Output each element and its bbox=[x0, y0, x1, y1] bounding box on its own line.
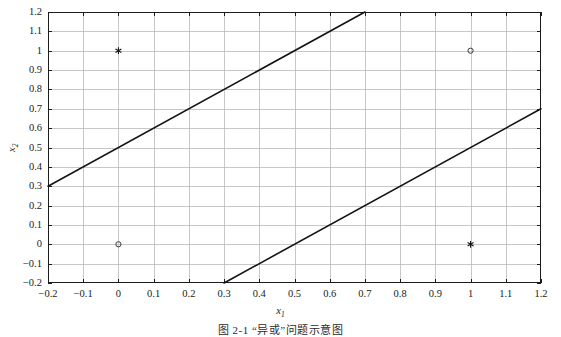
y-axis-title-subscript: 2 bbox=[11, 144, 20, 148]
y-tick-label: 0.6 bbox=[0, 123, 42, 134]
x-axis-title: x1 bbox=[0, 305, 561, 319]
y-tick-label: 0.1 bbox=[0, 220, 42, 231]
x-tick-label: 1.2 bbox=[534, 289, 547, 300]
line-lower-decision-boundary bbox=[224, 109, 541, 283]
y-tick-label: 0.4 bbox=[0, 162, 42, 173]
x-tick-label: 0.2 bbox=[182, 289, 195, 300]
x-tick-label: 0.9 bbox=[429, 289, 442, 300]
line-upper-decision-boundary bbox=[48, 12, 365, 186]
x-tick-label: 1.1 bbox=[499, 289, 512, 300]
y-axis-title: x2 bbox=[6, 144, 20, 152]
y-tick-label: 0.9 bbox=[0, 65, 42, 76]
y-tick-label: 0.2 bbox=[0, 200, 42, 211]
y-tick-label: 0.3 bbox=[0, 181, 42, 192]
x-tick-label: −0.1 bbox=[74, 289, 93, 300]
marker-asterisk bbox=[468, 241, 474, 248]
marker-circle bbox=[116, 242, 121, 247]
y-tick-label: 0.8 bbox=[0, 84, 42, 95]
x-tick-label: 0.4 bbox=[253, 289, 266, 300]
y-tick-label: 1.2 bbox=[0, 7, 42, 18]
y-tick-label: −0.2 bbox=[0, 278, 42, 289]
y-tick-label: 0 bbox=[0, 239, 42, 250]
y-tick-label: −0.1 bbox=[0, 258, 42, 269]
marker-asterisk bbox=[115, 47, 121, 54]
data-layer bbox=[48, 12, 541, 283]
x-axis-title-subscript: 1 bbox=[281, 310, 285, 319]
x-tick-label: 1 bbox=[468, 289, 473, 300]
figure-caption: 图 2-1 “异或”问题示意图 bbox=[0, 321, 561, 337]
plot-area bbox=[48, 12, 541, 283]
y-tick-label: 0.7 bbox=[0, 104, 42, 115]
x-tick-label: −0.2 bbox=[38, 289, 57, 300]
x-tick-label: 0.6 bbox=[323, 289, 336, 300]
x-tick-label: 0.8 bbox=[394, 289, 407, 300]
x-tick-label: 0 bbox=[116, 289, 121, 300]
x-tick-label: 0.5 bbox=[288, 289, 301, 300]
x-tick-label: 0.1 bbox=[147, 289, 160, 300]
x-tick-label: 0.3 bbox=[218, 289, 231, 300]
y-tick-label: 1 bbox=[0, 45, 42, 56]
y-tick-label: 1.1 bbox=[0, 26, 42, 37]
marker-circle bbox=[468, 48, 473, 53]
x-tick-label: 0.7 bbox=[358, 289, 371, 300]
